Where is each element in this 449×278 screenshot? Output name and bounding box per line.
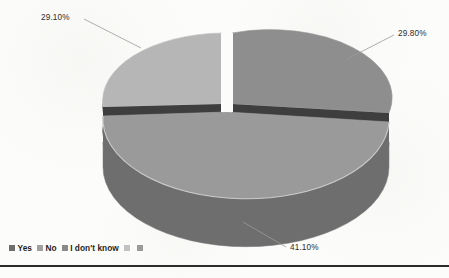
legend-label-yes: Yes bbox=[18, 244, 32, 252]
legend-swatch-yes bbox=[9, 245, 15, 251]
legend-swatch-i-dont-know bbox=[62, 245, 68, 251]
pct-label-no: 29.10% bbox=[41, 13, 70, 22]
legend-item-no[interactable]: No bbox=[37, 244, 57, 252]
chart-page: 29.10% 29.80% 41.10% Yes No I don't know bbox=[0, 0, 449, 278]
pct-label-yes: 29.80% bbox=[398, 29, 427, 38]
explode-gap bbox=[221, 33, 233, 112]
legend-item-yes[interactable]: Yes bbox=[9, 244, 32, 252]
leader-line-yes bbox=[347, 35, 394, 59]
legend-label-i-dont-know: I don't know bbox=[70, 244, 119, 252]
chart-legend: Yes No I don't know bbox=[9, 244, 146, 252]
pie-chart-graphic bbox=[0, 0, 449, 278]
legend-item-5[interactable] bbox=[137, 245, 146, 251]
legend-swatch-5 bbox=[137, 245, 143, 251]
legend-swatch-4 bbox=[124, 245, 130, 251]
legend-label-no: No bbox=[45, 244, 56, 252]
pct-label-i-dont-know: 41.10% bbox=[290, 243, 319, 252]
legend-swatch-no bbox=[37, 245, 43, 251]
leader-line-no bbox=[84, 19, 141, 48]
bottom-rule bbox=[0, 265, 449, 267]
slice-top-yes bbox=[232, 30, 392, 113]
pie-chart: 29.10% 29.80% 41.10% bbox=[0, 0, 449, 278]
slice-top-no bbox=[103, 33, 222, 107]
legend-item-i-dont-know[interactable]: I don't know bbox=[62, 244, 119, 252]
legend-item-4[interactable] bbox=[124, 245, 133, 251]
